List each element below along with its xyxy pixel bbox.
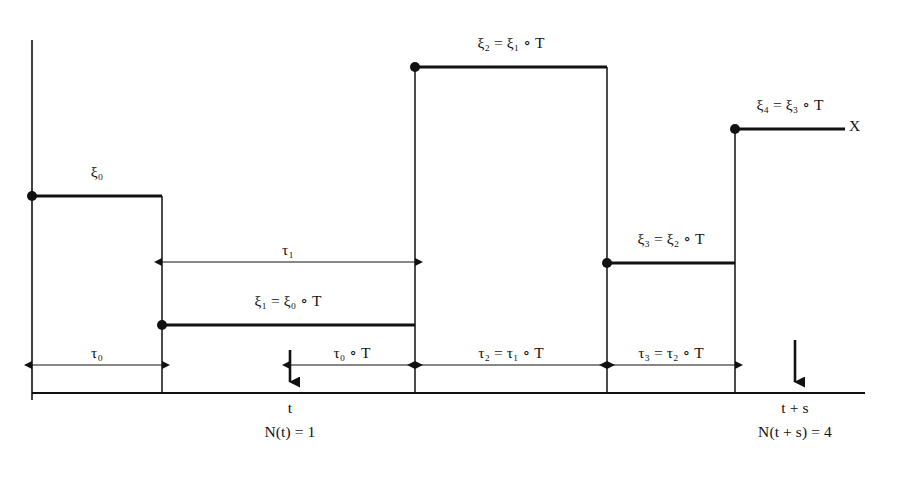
dot-xi0 [27,191,37,201]
label-xi2: ξ₂ = ξ₁ ∘ T [477,35,544,51]
dot-xi3 [602,258,612,268]
label-xi1: ξ₁ = ξ₀ ∘ T [251,293,324,309]
label-time-t: t [288,400,292,416]
dot-xi1 [157,320,167,330]
step-function-figure: ξ₀ ξ₁ = ξ₀ ∘ T ξ₂ = ξ₁ ∘ T ξ₃ = ξ₂ ∘ T ξ… [0,0,897,481]
dot-xi2 [410,62,420,72]
label-process-X: X [849,118,860,134]
label-xi4: ξ₄ = ξ₃ ∘ T [756,97,823,113]
label-count-N-t: N(t) = 1 [265,424,316,440]
label-time-t-plus-s: t + s [781,400,808,416]
label-xi0: ξ₀ [91,164,104,180]
label-xi3: ξ₃ = ξ₂ ∘ T [634,231,707,247]
label-tau2: τ₂ = τ₁ ∘ T [475,345,547,361]
label-count-N-t-plus-s: N(t + s) = 4 [758,424,832,440]
dot-xi4 [730,124,740,134]
label-tau3: τ₃ = τ₂ ∘ T [635,345,707,361]
diagram-canvas [0,0,897,481]
label-tau1: τ₁ [279,242,297,258]
label-tau0: τ₀ [88,345,106,361]
label-tau0T: τ₀ ∘ T [330,345,373,361]
